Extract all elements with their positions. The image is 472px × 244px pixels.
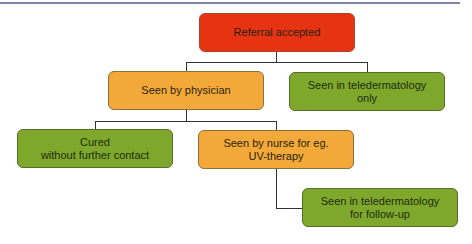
node-referral-accepted: Referral accepted: [199, 13, 355, 52]
node-seen-by-physician: Seen by physician: [108, 71, 264, 110]
connector-physician-down: [186, 110, 187, 121]
connector-to-tele-only: [367, 62, 368, 72]
top-rule: [0, 2, 460, 4]
connector-to-physician: [186, 62, 187, 71]
node-teledermatology-followup: Seen in teledermatology for follow-up: [302, 188, 458, 227]
node-cured: Cured without further contact: [17, 129, 173, 168]
connector-to-nurse: [276, 121, 277, 130]
connector-to-cured: [95, 121, 96, 129]
connector-referral-down: [276, 52, 277, 62]
connector-to-followup: [276, 208, 302, 209]
connector-level3-horizontal: [95, 121, 277, 122]
connector-nurse-down: [276, 169, 277, 208]
connector-level2-horizontal: [186, 62, 367, 63]
node-seen-by-nurse: Seen by nurse for eg. UV-therapy: [198, 130, 354, 169]
node-teledermatology-only: Seen in teledermatology only: [289, 72, 445, 111]
